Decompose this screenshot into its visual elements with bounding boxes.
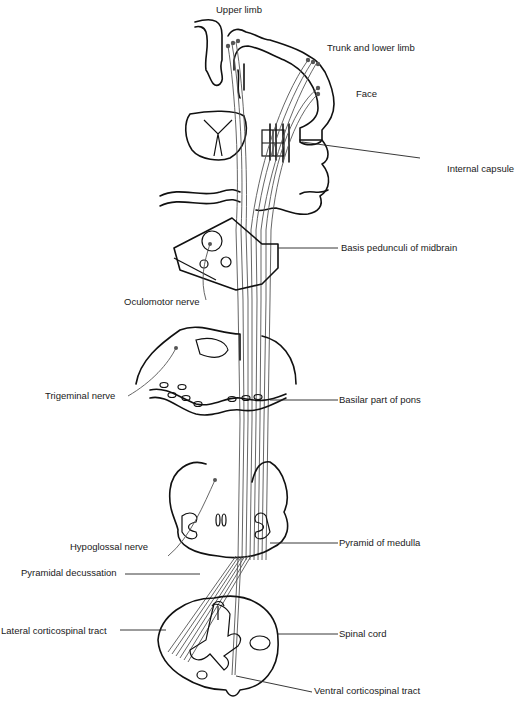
medulla — [168, 462, 288, 558]
label-pyramid-medulla: Pyramid of medulla — [339, 537, 420, 548]
corticospinal-fibers — [226, 39, 320, 560]
label-trigeminal-nerve: Trigeminal nerve — [45, 390, 115, 401]
cerebral-cortex — [195, 20, 334, 145]
label-oculomotor-nerve: Oculomotor nerve — [124, 296, 200, 307]
pons — [128, 327, 296, 415]
midbrain — [174, 218, 278, 300]
leader-lines — [120, 142, 420, 692]
label-trunk-lower-limb: Trunk and lower limb — [327, 42, 415, 53]
label-upper-limb: Upper limb — [216, 4, 262, 15]
label-hypoglossal-nerve: Hypoglossal nerve — [70, 541, 148, 552]
label-spinal-cord: Spinal cord — [339, 628, 387, 639]
label-internal-capsule: Internal capsule — [447, 163, 514, 174]
label-pyramidal-decussation: Pyramidal decussation — [21, 567, 117, 578]
label-ventral-cst: Ventral corticospinal tract — [314, 685, 420, 696]
corticospinal-tract-diagram — [0, 0, 529, 723]
label-basilar-pons: Basilar part of pons — [339, 394, 421, 405]
label-lateral-cst: Lateral corticospinal tract — [1, 625, 107, 636]
label-face: Face — [356, 88, 377, 99]
label-basis-pedunculi: Basis pedunculi of midbrain — [341, 242, 457, 253]
